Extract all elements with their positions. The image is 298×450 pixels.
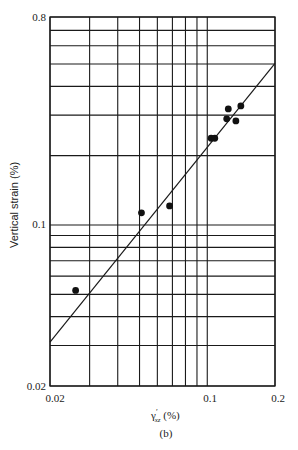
y-tick-0.1: 0.1 — [32, 218, 46, 230]
x-gridlines — [50, 17, 275, 386]
data-point — [72, 287, 79, 294]
data-point — [211, 135, 218, 142]
y-tick-0.02: 0.02 — [27, 380, 46, 392]
data-point — [237, 102, 244, 109]
data-point — [232, 118, 239, 125]
y-tick-0.8: 0.8 — [32, 11, 46, 23]
y-axis-label: Vertical strain (%) — [8, 162, 20, 248]
data-point — [166, 203, 173, 210]
x-tick-0.02: 0.02 — [45, 392, 64, 404]
data-point — [223, 115, 230, 122]
x-tick-0.1: 0.1 — [203, 392, 217, 404]
chart-svg: 0.8 0.1 0.02 0.02 0.1 0.2 Vertical strai… — [0, 0, 298, 450]
x-tick-0.2: 0.2 — [271, 392, 285, 404]
data-point — [138, 209, 145, 216]
x-axis-unit: (%) — [160, 409, 180, 422]
plot-frame — [50, 17, 275, 386]
data-point — [225, 106, 232, 113]
data-points — [72, 102, 244, 293]
x-axis-label: γ′xz (%) — [150, 408, 180, 424]
figure-caption: (b) — [160, 427, 173, 440]
y-gridlines — [50, 17, 275, 386]
